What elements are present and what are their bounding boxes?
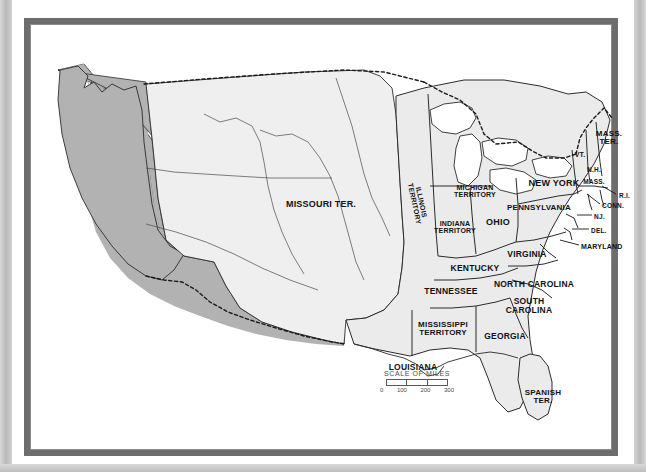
map-page: MISSOURI TER.ILLINOIS TERRITORYMICHIGAN … bbox=[0, 0, 646, 472]
map-label-virginia: VIRGINIA bbox=[507, 250, 546, 259]
map-label-ohio: OHIO bbox=[486, 218, 510, 227]
map-label-north-carolina: NORTH CAROLINA bbox=[494, 280, 574, 289]
map-label-new-jersey: NJ. bbox=[594, 214, 605, 221]
scale-bar-graphic bbox=[386, 379, 448, 386]
map-label-spanish-ter: SPANISH TER. bbox=[525, 389, 561, 405]
map-label-tennessee: TENNESSEE bbox=[424, 287, 477, 296]
scale-tick-labels: 0100200300 bbox=[380, 387, 454, 393]
map-label-georgia: GEORGIA bbox=[484, 332, 526, 341]
scale-segment bbox=[407, 380, 427, 385]
map-label-indiana-territory: INDIANA TERRITORY bbox=[434, 220, 476, 234]
map-label-south-carolina: SOUTH CAROLINA bbox=[506, 297, 552, 314]
scale-segment bbox=[428, 380, 447, 385]
map-label-kentucky: KENTUCKY bbox=[451, 264, 500, 273]
map-label-mississippi-territory: MISSISSIPPI TERRITORY bbox=[418, 321, 468, 337]
scale-tick: 100 bbox=[397, 387, 407, 393]
map-canvas: MISSOURI TER.ILLINOIS TERRITORYMICHIGAN … bbox=[24, 18, 618, 456]
scale-bar: SCALE OF MILES 0100200300 bbox=[369, 370, 465, 393]
map-label-maryland: MARYLAND bbox=[581, 243, 622, 250]
map-label-michigan-territory: MICHIGAN TERRITORY bbox=[454, 184, 496, 198]
map-label-connecticut: CONN. bbox=[602, 203, 624, 210]
map-label-rhode-island: R.I. bbox=[619, 193, 630, 200]
page-edge-left bbox=[0, 0, 12, 472]
map-label-mass-ter: MASS. TER. bbox=[596, 130, 622, 146]
map-label-new-york: NEW YORK bbox=[529, 179, 580, 188]
page-edge-right bbox=[634, 0, 646, 472]
scale-tick: 200 bbox=[420, 387, 430, 393]
scale-title: SCALE OF MILES bbox=[369, 370, 465, 377]
map-label-delaware: DEL. bbox=[591, 228, 607, 235]
scale-tick: 300 bbox=[444, 387, 454, 393]
map-label-pennsylvania: PENNSYLVANIA bbox=[507, 204, 571, 212]
map-label-massachusetts: MASS. bbox=[583, 179, 605, 186]
map-label-missouri-ter: MISSOURI TER. bbox=[286, 200, 356, 209]
scale-tick: 0 bbox=[380, 387, 383, 393]
map-label-vermont: VT. bbox=[575, 151, 586, 158]
page-edge-bottom bbox=[0, 464, 646, 472]
scale-segment bbox=[387, 380, 407, 385]
map-label-new-hampshire: N.H. bbox=[587, 167, 601, 174]
